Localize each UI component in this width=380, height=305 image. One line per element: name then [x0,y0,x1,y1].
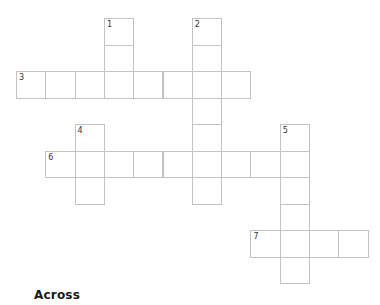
clue-number: 2 [195,20,200,30]
crossword-cell[interactable] [75,71,105,99]
crossword-cell[interactable] [192,151,222,179]
crossword-cell[interactable]: 6 [45,151,75,179]
crossword-cell[interactable] [192,177,222,205]
crossword-cell[interactable] [104,45,134,73]
crossword-cell[interactable] [280,257,310,285]
crossword-cell[interactable]: 4 [75,124,105,152]
crossword-cell[interactable] [280,230,310,258]
crossword-cell[interactable] [163,151,193,179]
crossword-cell[interactable] [221,71,251,99]
crossword-cell[interactable]: 1 [104,18,134,46]
crossword-cell[interactable] [221,151,251,179]
clue-number: 3 [19,73,24,83]
crossword-cell[interactable] [75,177,105,205]
crossword-cell[interactable] [280,204,310,232]
crossword-cell[interactable] [192,98,222,126]
crossword-cell[interactable] [104,71,134,99]
crossword-cell[interactable] [192,45,222,73]
clue-number: 6 [48,153,53,163]
crossword-cell[interactable] [75,151,105,179]
crossword-cell[interactable] [133,71,163,99]
crossword-cell[interactable]: 5 [280,124,310,152]
crossword-cell[interactable] [280,151,310,179]
clue-number: 1 [107,20,112,30]
clue-number: 4 [78,126,83,136]
crossword-cell[interactable] [163,71,193,99]
crossword-cell[interactable] [133,151,163,179]
across-clues-heading: Across [34,288,80,302]
crossword-cell[interactable]: 3 [16,71,46,99]
clue-number: 5 [283,126,288,136]
crossword-cell[interactable] [104,151,134,179]
crossword-puzzle: 1234567 Across [0,0,380,305]
crossword-cell[interactable] [192,71,222,99]
crossword-cell[interactable] [338,230,368,258]
crossword-cell[interactable] [250,151,280,179]
crossword-cell[interactable] [45,71,75,99]
crossword-cell[interactable] [280,177,310,205]
crossword-cell[interactable]: 2 [192,18,222,46]
clue-number: 7 [253,232,258,242]
crossword-cell[interactable] [192,124,222,152]
crossword-cell[interactable] [309,230,339,258]
crossword-cell[interactable]: 7 [250,230,280,258]
